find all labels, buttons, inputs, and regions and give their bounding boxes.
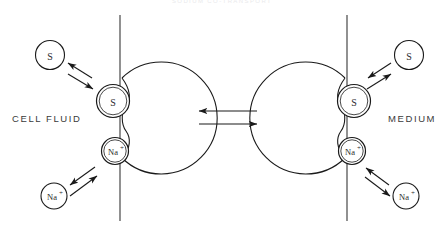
free-sodium-label-left: Na <box>47 192 57 202</box>
medium-label: MEDIUM <box>388 113 436 124</box>
arrow-sodium-binding-left <box>70 176 97 196</box>
cell-fluid-label: CELL FLUID <box>12 113 82 124</box>
sodium-cotransport-diagram: SODIUM CO-TRANSPORT S Na + S Na + <box>0 0 444 233</box>
free-substrate-label-left: S <box>47 51 53 62</box>
carrier-body-left <box>122 62 217 174</box>
arrow-sodium-release-left <box>70 167 95 185</box>
carrier-bound-sodium-charge-left: + <box>120 144 124 152</box>
free-sodium-label-right: Na <box>399 192 409 202</box>
arrow-sodium-binding-right <box>366 168 389 185</box>
carrier-bound-sodium-label-left: Na <box>108 147 118 157</box>
carrier-bound-sodium-label-right: Na <box>345 147 355 157</box>
carrier-bound-substrate-label-right: S <box>351 97 357 108</box>
carrier-body-right <box>250 62 345 174</box>
arrow-sodium-release-right <box>365 177 390 196</box>
carrier-bound-substrate-label-left: S <box>110 97 116 108</box>
free-sodium-charge-right: + <box>411 189 415 197</box>
carrier-bound-sodium-charge-right: + <box>357 144 361 152</box>
free-sodium-charge-left: + <box>59 189 63 197</box>
free-substrate-label-right: S <box>406 51 412 62</box>
